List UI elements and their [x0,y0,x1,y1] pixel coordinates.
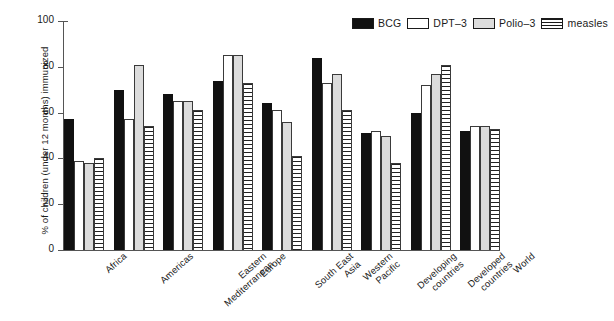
bar-measles [292,156,302,250]
bar-dpt3 [74,161,84,250]
x-axis-label: Developing countries [415,251,466,300]
bar-bcg [64,119,74,250]
bar-group [262,21,302,250]
bar-measles [243,83,253,250]
bar-group [163,21,203,250]
bar-bcg [361,133,371,250]
bar-group [361,21,401,250]
x-axis-label: Americas [158,251,195,286]
x-axis-labels: AfricaAmericasEastern MediterraneanEurop… [63,251,500,321]
bar-measles [144,126,154,250]
bar-bcg [460,131,470,250]
y-axis-tick-label: 60 [43,106,54,117]
bar-group [312,21,352,250]
x-axis-label: Eastern Mediterranean [215,251,276,309]
bar-bcg [114,90,124,250]
legend-swatch-measles-icon [541,18,563,29]
bar-polio3 [134,65,144,250]
y-axis-tick-label: 20 [43,197,54,208]
bar-group [114,21,154,250]
legend-label-measles: measles [567,17,608,29]
bar-polio3 [480,126,490,250]
bar-dpt3 [322,83,332,250]
bar-dpt3 [421,85,431,250]
bar-measles [490,129,500,250]
bar-measles [94,158,104,250]
immunization-bar-chart: BCG DPT–3 Polio–3 measles % of children … [0,0,614,321]
bar-dpt3 [272,110,282,250]
bar-group [460,21,500,250]
x-axis-label: Africa [103,251,129,276]
bar-dpt3 [223,55,233,250]
plot-area: 020406080100 [63,21,500,250]
bar-polio3 [84,163,94,250]
bar-polio3 [381,136,391,251]
bar-bcg [163,94,173,250]
bar-polio3 [282,122,292,250]
legend-item-measles: measles [541,17,608,29]
bar-measles [391,163,401,250]
bar-dpt3 [371,131,381,250]
bar-bcg [262,103,272,250]
bar-measles [441,65,451,250]
bar-dpt3 [470,126,480,250]
x-axis-label: Developed countries [466,251,515,298]
y-axis-tick-label: 40 [43,151,54,162]
bar-polio3 [183,101,193,250]
x-axis-label: South East Asia [313,251,363,299]
bar-bcg [411,113,421,250]
x-axis-label: World [511,251,537,276]
bar-polio3 [233,55,243,250]
bar-group [213,21,253,250]
bar-measles [342,110,352,250]
bar-groups [64,21,500,250]
bar-bcg [312,58,322,250]
bar-dpt3 [124,119,134,250]
x-axis-label: Western Pacific [361,251,402,291]
bar-bcg [213,81,223,250]
bar-polio3 [431,74,441,250]
y-axis-title: % of children (under 12 months) immunize… [39,21,50,261]
bar-group [64,21,104,250]
y-axis-tick-label: 0 [48,243,54,254]
bar-dpt3 [173,101,183,250]
bar-group [411,21,451,250]
bar-measles [193,110,203,250]
legend-label-polio3: Polio–3 [499,17,535,29]
bar-polio3 [332,74,342,250]
y-axis-tick-label: 100 [37,14,54,25]
y-axis-tick-label: 80 [43,60,54,71]
